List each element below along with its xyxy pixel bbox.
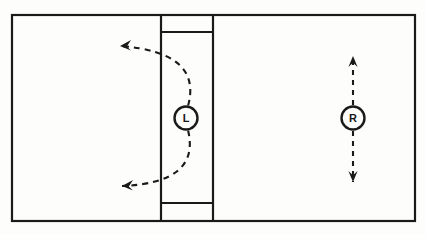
node-R: R [340, 105, 365, 130]
arc-lower-left-head [122, 180, 133, 191]
arrow-layer [120, 46, 353, 186]
node-L: L [173, 105, 198, 130]
arrow-up-right-head [348, 56, 357, 67]
node-layer: LR [173, 105, 365, 130]
arc-lower-left [122, 130, 190, 186]
node-L-label: L [183, 112, 190, 124]
node-R-label: R [349, 112, 357, 124]
arc-upper-left-head [120, 40, 131, 51]
diagram-canvas: LR [0, 0, 426, 235]
arc-upper-left [120, 46, 190, 106]
figure-container: LR [0, 0, 426, 235]
arrowhead-layer [120, 40, 358, 191]
